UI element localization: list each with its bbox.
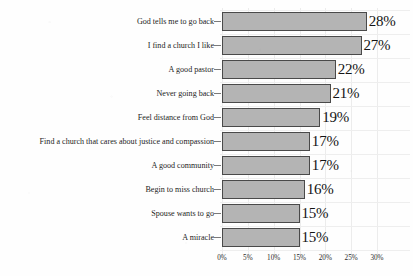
category-tick-icon <box>214 21 221 22</box>
category-label: Never going back <box>0 82 214 106</box>
bar-row: A miracle15% <box>222 226 377 250</box>
category-tick-icon <box>214 237 221 238</box>
category-label: Spouse wants to go <box>0 202 214 226</box>
bar <box>222 228 300 247</box>
x-axis-tick-label: 0% <box>217 252 227 264</box>
bar-value-label: 15% <box>302 202 329 225</box>
x-axis-tick-label: 30% <box>370 252 383 264</box>
bar-value-label: 17% <box>312 130 339 153</box>
bar-value-label: 17% <box>312 154 339 177</box>
bar-value-label: 27% <box>364 34 391 57</box>
bar-row: Find a church that cares about justice a… <box>222 130 377 154</box>
category-label: Feel distance from God <box>0 106 214 130</box>
category-label: Find a church that cares about justice a… <box>0 130 214 154</box>
bar <box>222 36 362 55</box>
bar-row: God tells me to go back28% <box>222 10 377 34</box>
bar-value-label: 28% <box>369 10 396 33</box>
bar <box>222 180 305 199</box>
bar <box>222 204 300 223</box>
bar-row: I find a church I like27% <box>222 34 377 58</box>
x-axis-tick-label: 15% <box>293 252 306 264</box>
category-tick-icon <box>214 165 221 166</box>
bar-value-label: 15% <box>302 226 329 249</box>
bar <box>222 156 310 175</box>
horizontal-gridline <box>220 250 410 251</box>
bar-value-label: 21% <box>333 82 360 105</box>
bar <box>222 60 336 79</box>
category-label: Begin to miss church <box>0 178 214 202</box>
x-axis-tick-label: 20% <box>319 252 332 264</box>
category-tick-icon <box>214 213 221 214</box>
bar-chart-figure: God tells me to go back28%I find a churc… <box>0 0 413 276</box>
category-label: A good community <box>0 154 214 178</box>
category-tick-icon <box>214 93 221 94</box>
category-label: A good pastor <box>0 58 214 82</box>
x-axis-tick-label: 25% <box>345 252 358 264</box>
bar-row: Begin to miss church16% <box>222 178 377 202</box>
plot-area: God tells me to go back28%I find a churc… <box>222 10 377 250</box>
category-label: I find a church I like <box>0 34 214 58</box>
category-tick-icon <box>214 69 221 70</box>
bar-value-label: 19% <box>322 106 349 129</box>
bar <box>222 84 331 103</box>
bar <box>222 108 320 127</box>
bar-value-label: 22% <box>338 58 365 81</box>
x-axis-tick-label: 5% <box>243 252 253 264</box>
category-label: God tells me to go back <box>0 10 214 34</box>
bar <box>222 12 367 31</box>
category-tick-icon <box>214 117 221 118</box>
bar-row: Never going back21% <box>222 82 377 106</box>
bar-row: A good pastor22% <box>222 58 377 82</box>
bar-value-label: 16% <box>307 178 334 201</box>
bar-row: Feel distance from God19% <box>222 106 377 130</box>
bar-row: Spouse wants to go15% <box>222 202 377 226</box>
category-tick-icon <box>214 141 221 142</box>
x-axis-tick-label: 10% <box>267 252 280 264</box>
category-tick-icon <box>214 189 221 190</box>
bar <box>222 132 310 151</box>
bar-row: A good community17% <box>222 154 377 178</box>
category-label: A miracle <box>0 226 214 250</box>
x-axis: 0%5%10%15%20%25%30% <box>0 252 413 266</box>
category-tick-icon <box>214 45 221 46</box>
